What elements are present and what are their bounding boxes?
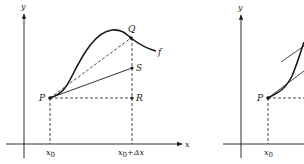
derivative-diagram: y x P Q S R f bbox=[0, 0, 304, 164]
tangent-line-PS bbox=[50, 68, 132, 98]
y-axis-label-right: y bbox=[237, 3, 243, 12]
label-f: f bbox=[157, 47, 163, 57]
label-Q: Q bbox=[128, 24, 136, 34]
point-P-right bbox=[266, 96, 270, 100]
right-panel: y P x0 bbox=[223, 3, 304, 159]
point-Q bbox=[129, 36, 133, 40]
secant-line-PQ bbox=[50, 38, 131, 98]
tick-label-x0: x0 bbox=[46, 148, 55, 159]
label-P: P bbox=[38, 93, 46, 103]
point-S bbox=[130, 66, 133, 69]
tick-label-x0-right: x0 bbox=[264, 148, 273, 159]
label-R: R bbox=[135, 93, 143, 103]
x-axis-label: x bbox=[185, 140, 190, 149]
left-panel: y x P Q S R f bbox=[6, 2, 190, 159]
y-axis-label: y bbox=[20, 2, 26, 11]
function-curve-right bbox=[268, 42, 304, 98]
point-R bbox=[130, 96, 133, 99]
label-P-right: P bbox=[256, 93, 264, 103]
point-P bbox=[48, 96, 52, 100]
tick-label-x0-plus-dx: x0+Δx bbox=[118, 148, 144, 159]
label-S: S bbox=[136, 63, 142, 73]
